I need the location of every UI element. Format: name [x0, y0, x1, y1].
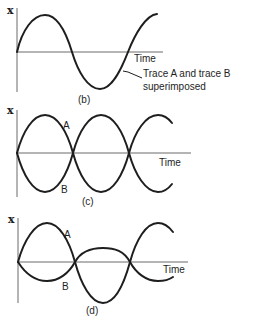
trace-a-label: A	[64, 229, 71, 240]
panel-c: x Time A B (c)	[7, 104, 191, 207]
time-axis-label: Time	[163, 264, 185, 275]
caption-b: (b)	[78, 94, 90, 105]
annotation-leader-line	[123, 71, 142, 78]
trace-b-label: B	[62, 281, 69, 292]
panel-b: x Time Trace A and trace B superimposed …	[7, 4, 231, 105]
annotation-line-1: Trace A and trace B	[143, 68, 231, 79]
y-axis-label: x	[8, 213, 15, 226]
trace-a	[18, 223, 173, 303]
annotation-line-2: superimposed	[143, 81, 206, 92]
trace-a-label: A	[63, 120, 70, 131]
time-axis-label: Time	[159, 157, 181, 168]
caption-d: (d)	[86, 305, 98, 316]
diagram-canvas: x Time Trace A and trace B superimposed …	[0, 0, 259, 324]
y-axis-label: x	[7, 104, 14, 117]
caption-c: (c)	[82, 196, 94, 207]
trace-b-label: B	[61, 184, 68, 195]
time-axis-label: Time	[134, 53, 156, 64]
trace-b	[18, 248, 173, 281]
panel-d: x Time A B (d)	[8, 213, 188, 316]
y-axis-label: x	[7, 4, 14, 17]
